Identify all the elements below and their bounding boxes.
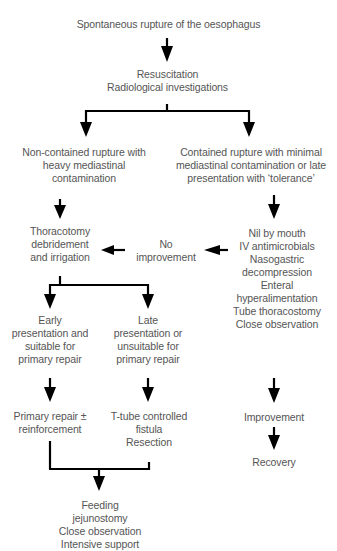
arrow-early-to-primary [44, 378, 56, 402]
arrow-noncontained-to-thoracotomy [54, 199, 66, 219]
node-t-tube-fistula: T-tube controlled fistula Resection [96, 410, 202, 449]
node-feeding-jejunostomy: Feeding jejunostomy Close observation In… [44, 499, 156, 551]
node-conservative-management: Nil by mouth IV antimicrobials Nasogastr… [222, 227, 332, 331]
arrow-late-to-ttube [142, 378, 154, 402]
node-early-presentation: Early presentation and suitable for prim… [2, 314, 98, 366]
node-improvement: Improvement [224, 411, 324, 424]
node-recovery: Recovery [224, 456, 324, 469]
node-late-presentation: Late presentation or unsuitable for prim… [100, 314, 196, 366]
node-no-improvement: No improvement [126, 238, 206, 264]
arrow-improvement-to-recovery [268, 427, 280, 450]
arrow-start-to-resus [161, 38, 173, 62]
arrow-contained-to-conservative [268, 195, 280, 219]
node-primary-repair: Primary repair ± reinforcement [2, 410, 98, 436]
node-resuscitation: Resuscitation Radiological investigation… [70, 68, 265, 94]
node-non-contained-rupture: Non-contained rupture with heavy mediast… [4, 146, 164, 185]
node-contained-rupture: Contained rupture with minimal mediastin… [168, 146, 334, 185]
node-spontaneous-rupture: Spontaneous rupture of the oesophagus [40, 18, 297, 31]
arrow-conservative-to-improvement [268, 378, 280, 403]
node-thoracotomy: Thoracotomy debridement and irrigation [10, 225, 110, 264]
arrow-thoracotomy-split [44, 276, 154, 309]
arrow-resus-split [80, 104, 255, 137]
